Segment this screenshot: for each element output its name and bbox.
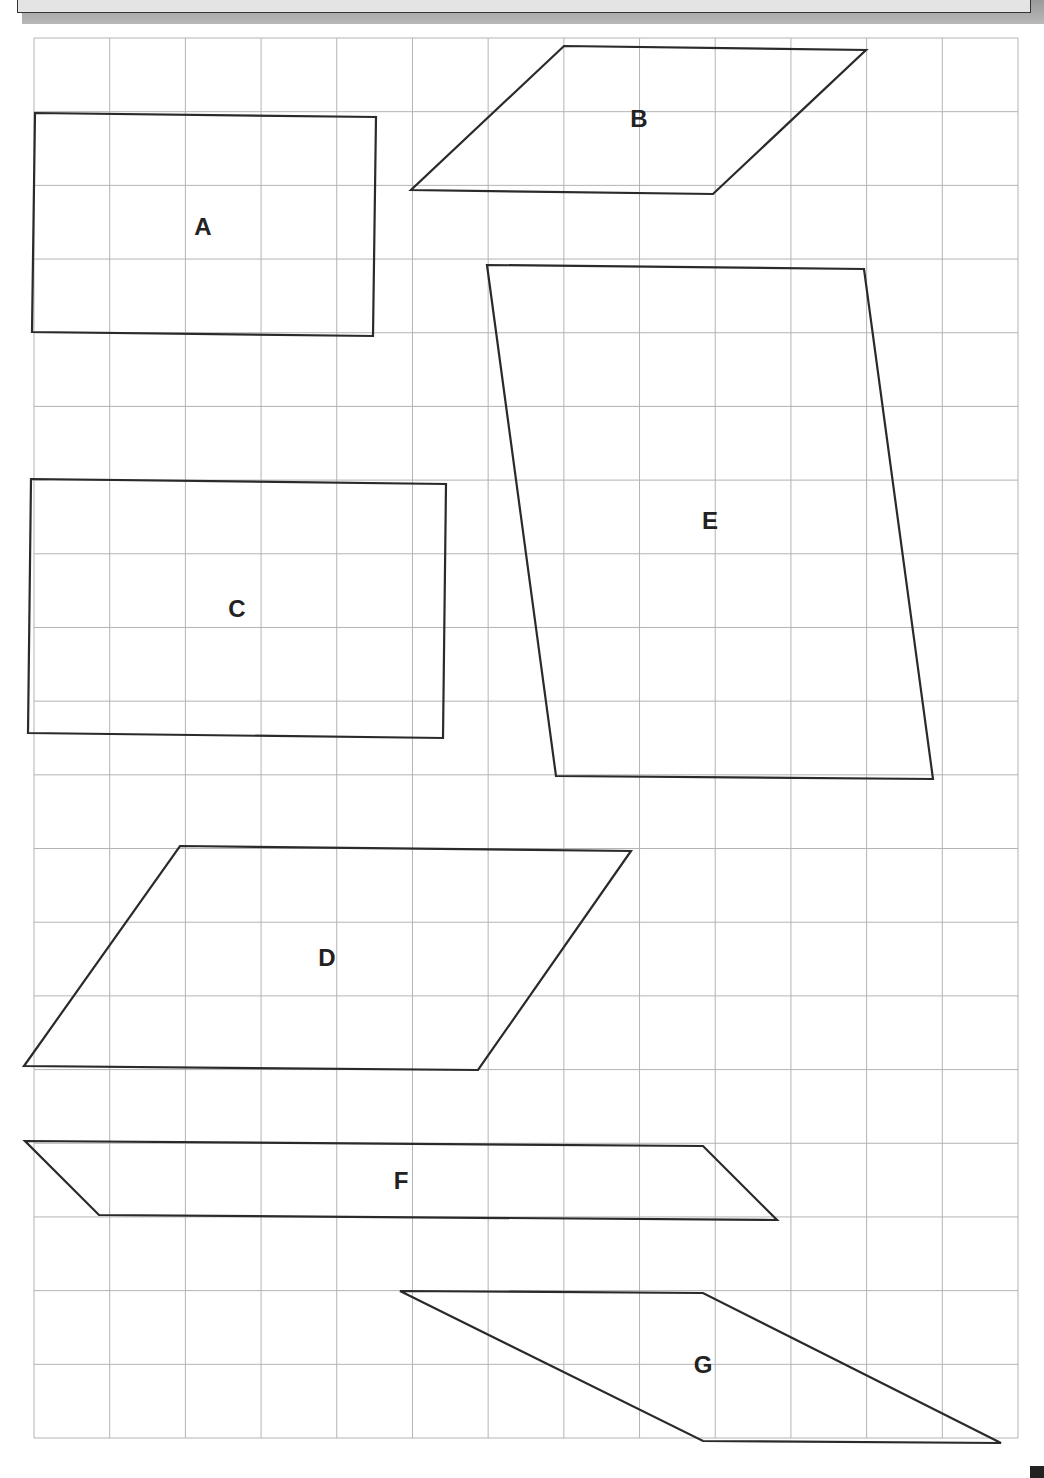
- shape-label: C: [228, 595, 245, 622]
- shape-d: D: [24, 846, 631, 1070]
- shape-f: F: [25, 1141, 777, 1220]
- square-grid: [34, 38, 1018, 1438]
- shape-label: G: [694, 1351, 713, 1378]
- shape-label: E: [702, 507, 718, 534]
- shape-label: A: [194, 213, 211, 240]
- shape-a: A: [32, 113, 376, 336]
- shape-b: B: [411, 46, 866, 194]
- grid-diagram: ABCEDFG: [0, 0, 1044, 1478]
- shape-label: D: [318, 944, 335, 971]
- shape-c: C: [28, 479, 446, 738]
- shapes: ABCEDFG: [24, 46, 1001, 1443]
- shape-g: G: [400, 1291, 1001, 1443]
- shape-label: F: [394, 1167, 409, 1194]
- shape-label: B: [630, 105, 647, 132]
- page-corner-mark: [1030, 1466, 1044, 1478]
- shape-e: E: [487, 265, 933, 779]
